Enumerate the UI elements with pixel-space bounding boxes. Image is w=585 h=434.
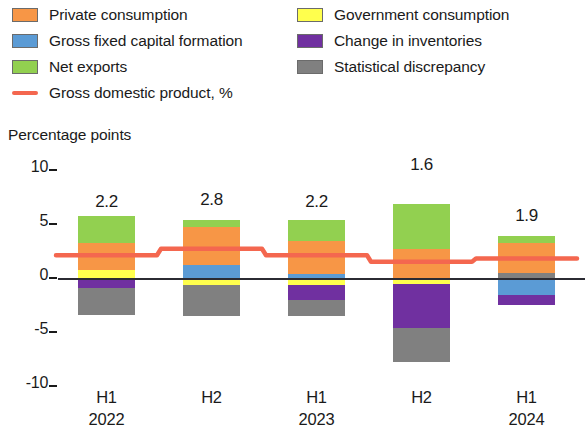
bar-value-label: 1.9 [487, 206, 567, 226]
x-axis-period-label: H2 [167, 388, 257, 407]
x-axis-year-label: 2024 [482, 410, 572, 429]
x-axis-year-label: 2022 [62, 410, 152, 429]
bar-value-label: 2.8 [172, 190, 252, 210]
chart-plot-area: Percentage points 1050-5-10 2.22.82.21.6… [0, 0, 585, 434]
x-axis-period-label: H1 [62, 388, 152, 407]
bar-value-label: 2.2 [67, 192, 147, 212]
bar-value-label: 2.2 [277, 192, 357, 212]
bar-value-label: 1.6 [382, 155, 462, 175]
x-axis-year-label: 2023 [272, 410, 362, 429]
x-axis-period-label: H1 [272, 388, 362, 407]
gdp-line-path [56, 249, 577, 262]
x-axis-period-label: H2 [377, 388, 467, 407]
x-axis-period-label: H1 [482, 388, 572, 407]
